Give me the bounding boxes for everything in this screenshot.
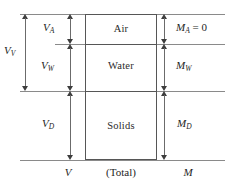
soil-phase-diagram: Air Water Solids VV VA VW VD xyxy=(0,0,244,189)
dim-label-air-volume: VA xyxy=(43,21,54,35)
caption-mass: M xyxy=(168,166,208,178)
caption-total: (Total) xyxy=(85,166,157,178)
box-divider-water-solids xyxy=(86,91,156,92)
dim-arrow-solids-volume xyxy=(67,91,74,160)
arrowhead-down-icon xyxy=(22,86,28,91)
dim-arrow-air-volume xyxy=(67,14,74,44)
dim-arrow-solids-mass xyxy=(161,91,168,160)
dim-label-total-voids-volume: VV xyxy=(4,44,15,58)
dim-label-air-mass-value: = 0 xyxy=(190,21,207,33)
caption-volume: V xyxy=(48,166,88,178)
dim-label-solids-mass-symbol: M xyxy=(177,117,186,129)
arrowhead-down-icon xyxy=(161,155,167,160)
dim-label-air-volume-subscript: A xyxy=(50,26,55,35)
dim-arrow-water-volume xyxy=(67,44,74,91)
arrowhead-down-icon xyxy=(67,155,73,160)
arrow-shaft xyxy=(164,18,165,40)
phase-label-solids: Solids xyxy=(86,120,156,131)
dim-label-water-volume-subscript: W xyxy=(48,64,54,73)
dim-arrow-air-mass xyxy=(161,14,168,44)
dim-label-water-mass: MW xyxy=(176,59,191,73)
arrow-shaft xyxy=(164,95,165,156)
dim-label-water-mass-symbol: M xyxy=(176,59,185,71)
arrow-shaft xyxy=(70,95,71,156)
dim-label-air-volume-symbol: V xyxy=(43,21,50,33)
dim-label-solids-volume: VD xyxy=(42,117,54,131)
arrow-shaft xyxy=(70,48,71,87)
arrow-shaft xyxy=(70,18,71,40)
dim-label-solids-volume-symbol: V xyxy=(42,117,49,129)
dim-label-total-voids-volume-symbol: V xyxy=(4,44,11,56)
dim-label-water-mass-subscript: W xyxy=(185,64,191,73)
dim-label-air-mass: MA = 0 xyxy=(176,21,207,35)
phase-box: Air Water Solids xyxy=(85,14,157,160)
box-divider-air-water xyxy=(86,44,156,45)
dim-label-total-voids-volume-subscript: V xyxy=(11,49,16,58)
phase-label-air: Air xyxy=(86,23,156,34)
dim-label-water-volume-symbol: V xyxy=(41,59,48,71)
dim-arrow-water-mass xyxy=(161,44,168,91)
dim-label-solids-mass-subscript: D xyxy=(186,122,191,131)
rule-bottom xyxy=(20,160,225,161)
dim-label-water-volume: VW xyxy=(41,59,54,73)
dim-arrow-total-voids-volume xyxy=(22,14,29,91)
dim-label-air-mass-symbol: M xyxy=(176,21,185,33)
arrow-shaft xyxy=(25,18,26,87)
arrow-shaft xyxy=(164,48,165,87)
phase-label-water: Water xyxy=(86,60,156,71)
dim-label-solids-mass: MD xyxy=(177,117,192,131)
dim-label-solids-volume-subscript: D xyxy=(49,122,54,131)
